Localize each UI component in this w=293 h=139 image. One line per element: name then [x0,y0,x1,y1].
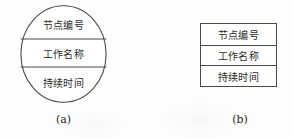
ellipse-field-duration: 持续时间 [20,68,107,96]
rectangle-node-symbol: 节点编号 工作名称 持续时间 [200,23,277,87]
rectangle-field-node-number: 节点编号 [201,24,276,45]
ellipse-node-symbol: 节点编号 工作名称 持续时间 [20,5,107,103]
ellipse-field-node-number: 节点编号 [20,11,107,38]
ellipse-field-activity-name: 工作名称 [20,39,107,67]
figure-variant-a: 节点编号 工作名称 持续时间 (a) [0,0,146,139]
rectangle-field-duration: 持续时间 [201,65,276,86]
figure-caption-b: (b) [146,113,293,126]
figure-caption-a: (a) [0,113,127,126]
rectangle-field-activity-name: 工作名称 [201,45,276,66]
figure-variant-b: 节点编号 工作名称 持续时间 (b) [146,0,293,139]
